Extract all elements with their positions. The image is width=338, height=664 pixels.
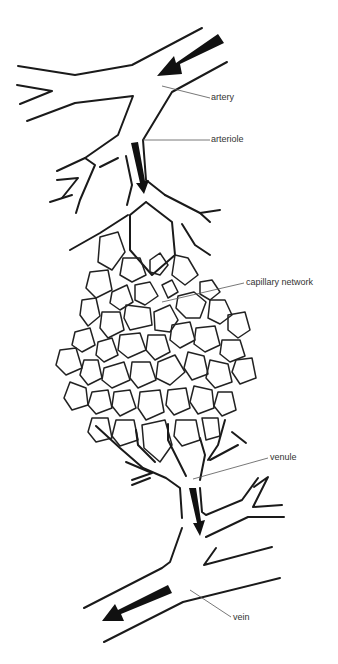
circulation-diagram — [0, 0, 338, 664]
vein-vessel — [84, 517, 284, 642]
venule-label: venule — [270, 453, 297, 462]
vein-leader-line — [190, 590, 231, 617]
artery-label: artery — [211, 93, 234, 102]
capillary-network-label: capillary network — [246, 278, 313, 287]
arteriole-vessel — [70, 195, 220, 275]
vein-flow-arrow — [102, 585, 172, 621]
capillary-network — [56, 232, 256, 462]
arteriole-flow-arrow — [131, 142, 149, 194]
vein-label: vein — [233, 613, 250, 622]
venule-vessel — [96, 420, 282, 518]
arteriole-label: arteriole — [211, 135, 244, 144]
